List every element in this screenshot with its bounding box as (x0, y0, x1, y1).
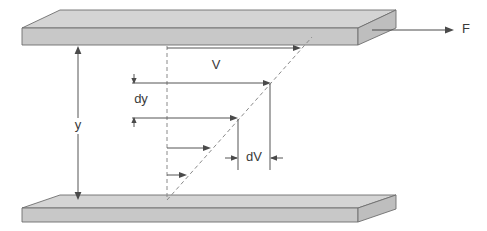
velocity-label: V (212, 57, 221, 72)
velocity-arrowhead-icon (293, 45, 301, 51)
velocity-arrowhead-icon (179, 172, 187, 178)
gap-arrowhead-up-icon (75, 46, 82, 54)
velocity-arrow (167, 172, 187, 178)
force-label: F (462, 21, 470, 36)
velocity-arrowhead-icon (230, 115, 238, 121)
dv-arrowhead-left-icon (270, 155, 277, 161)
dv-label: dV (246, 149, 262, 164)
moving-plate-top-face (22, 10, 396, 28)
dv-arrowhead-right-icon (231, 155, 238, 161)
gap-height-label: y (75, 117, 82, 132)
velocity-arrow (167, 45, 301, 51)
velocity-arrowhead-icon (203, 145, 211, 151)
velocity-arrow (167, 80, 271, 86)
moving-plate (22, 10, 396, 45)
shear-flow-diagram: F y (0, 0, 487, 231)
velocity-arrow (167, 115, 238, 121)
stationary-plate-front-face (22, 208, 358, 222)
velocity-arrow (167, 145, 211, 151)
diagram-canvas: F y (0, 0, 487, 231)
force-arrowhead-icon (445, 27, 454, 34)
dy-label: dy (134, 91, 148, 106)
